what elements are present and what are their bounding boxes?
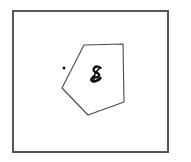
figure-container: Hand-drawn pentagon inside a rectangular…: [0, 0, 191, 162]
drawing-canvas: Hand-drawn pentagon inside a rectangular…: [0, 0, 191, 162]
point-marker-dot: [63, 67, 66, 70]
